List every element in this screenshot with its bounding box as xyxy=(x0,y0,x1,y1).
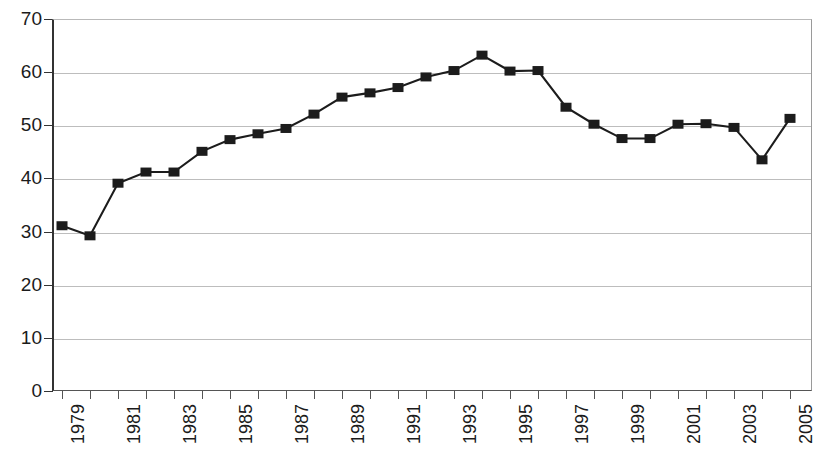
x-axis-tick-label: 2005 xyxy=(797,404,815,444)
x-axis-tick xyxy=(510,391,511,399)
x-axis-tick xyxy=(342,391,343,399)
x-axis-tick-label: 1993 xyxy=(461,404,479,444)
x-axis-tick xyxy=(62,391,63,399)
data-point xyxy=(645,134,656,143)
data-point xyxy=(85,231,96,240)
x-axis-tick xyxy=(594,391,595,399)
data-point xyxy=(141,168,152,177)
x-axis-tick-label: 1983 xyxy=(181,404,199,444)
x-axis-tick-label: 1979 xyxy=(69,404,87,444)
x-axis-tick xyxy=(258,391,259,399)
x-axis-tick xyxy=(622,391,623,399)
data-point xyxy=(113,179,124,188)
data-point xyxy=(673,120,684,129)
data-point xyxy=(785,114,796,123)
data-point xyxy=(365,88,376,97)
x-axis-tick-label: 1985 xyxy=(237,404,255,444)
data-point xyxy=(533,66,544,75)
x-axis-tick xyxy=(566,391,567,399)
x-axis-tick-label: 1989 xyxy=(349,404,367,444)
series-line xyxy=(62,55,790,236)
data-point xyxy=(421,72,432,81)
y-axis-labels: 010203040506070 xyxy=(0,0,42,476)
data-point xyxy=(337,93,348,102)
x-axis-tick xyxy=(650,391,651,399)
x-axis-tick xyxy=(90,391,91,399)
x-axis-tick xyxy=(146,391,147,399)
data-point xyxy=(505,67,516,76)
data-point xyxy=(757,155,768,164)
y-axis-tick-label: 60 xyxy=(0,62,42,81)
y-axis-tick-label: 30 xyxy=(0,222,42,241)
x-axis-tick-label: 1997 xyxy=(573,404,591,444)
data-point xyxy=(281,124,292,133)
x-axis-tick xyxy=(286,391,287,399)
x-axis-tick xyxy=(230,391,231,399)
y-axis-tick-label: 20 xyxy=(0,275,42,294)
data-point xyxy=(197,147,208,156)
x-axis-tick xyxy=(370,391,371,399)
x-axis-tick xyxy=(118,391,119,399)
data-point xyxy=(589,120,600,129)
data-point xyxy=(309,110,320,119)
data-point xyxy=(57,221,68,230)
data-point xyxy=(225,135,236,144)
data-point xyxy=(561,103,572,112)
data-point xyxy=(169,168,180,177)
data-point xyxy=(393,83,404,92)
x-axis-tick xyxy=(482,391,483,399)
x-axis-tick xyxy=(174,391,175,399)
x-axis-tick-label: 2001 xyxy=(685,404,703,444)
data-point xyxy=(477,51,488,60)
y-axis-tick-label: 50 xyxy=(0,115,42,134)
data-series xyxy=(52,19,812,391)
data-point xyxy=(617,134,628,143)
x-axis-tick xyxy=(398,391,399,399)
x-axis-tick xyxy=(426,391,427,399)
x-axis-tick xyxy=(734,391,735,399)
x-axis-tick xyxy=(202,391,203,399)
y-axis-tick xyxy=(44,391,53,392)
x-axis-tick-label: 1981 xyxy=(125,404,143,444)
x-axis-tick xyxy=(538,391,539,399)
x-axis-tick xyxy=(706,391,707,399)
x-axis-tick xyxy=(314,391,315,399)
y-axis-tick-label: 40 xyxy=(0,168,42,187)
data-point xyxy=(449,66,460,75)
y-axis-tick-label: 10 xyxy=(0,328,42,347)
x-axis-tick-label: 1999 xyxy=(629,404,647,444)
x-axis-tick-label: 2003 xyxy=(741,404,759,444)
x-axis-tick xyxy=(454,391,455,399)
marker-group xyxy=(57,51,796,241)
y-axis-tick-label: 70 xyxy=(0,9,42,28)
x-axis-tick xyxy=(762,391,763,399)
x-axis-tick xyxy=(678,391,679,399)
data-point xyxy=(701,119,712,128)
x-axis-tick-label: 1995 xyxy=(517,404,535,444)
x-axis-tick-label: 1991 xyxy=(405,404,423,444)
line-chart: 010203040506070 197919811983198519871989… xyxy=(0,0,826,476)
x-axis-tick-label: 1987 xyxy=(293,404,311,444)
x-axis-tick xyxy=(790,391,791,399)
y-axis-tick-label: 0 xyxy=(0,381,42,400)
data-point xyxy=(729,123,740,132)
data-point xyxy=(253,129,264,138)
